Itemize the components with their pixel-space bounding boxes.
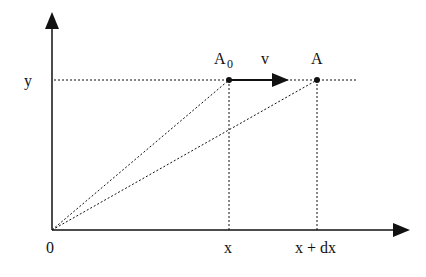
velocity-label: v bbox=[261, 50, 269, 67]
y-axis-arrowhead bbox=[45, 12, 59, 29]
point-a-label: A bbox=[311, 50, 323, 67]
origin-to-a0-dotted-line bbox=[52, 80, 229, 230]
x-axis-arrowhead bbox=[393, 223, 410, 237]
point-a0-label: A bbox=[214, 50, 226, 67]
x-tick-label: x bbox=[224, 239, 232, 256]
x-dx-tick-label: x + dx bbox=[295, 239, 336, 256]
origin-label: 0 bbox=[46, 239, 54, 256]
point-a bbox=[314, 77, 320, 83]
y-axis-label: y bbox=[24, 72, 32, 90]
point-a0-subscript: 0 bbox=[227, 57, 233, 71]
point-a0 bbox=[226, 77, 232, 83]
origin-to-a-dotted-line bbox=[52, 80, 317, 230]
velocity-arrowhead bbox=[272, 73, 289, 87]
velocity-diagram: y 0 x x + dx A 0 v A bbox=[0, 0, 426, 277]
